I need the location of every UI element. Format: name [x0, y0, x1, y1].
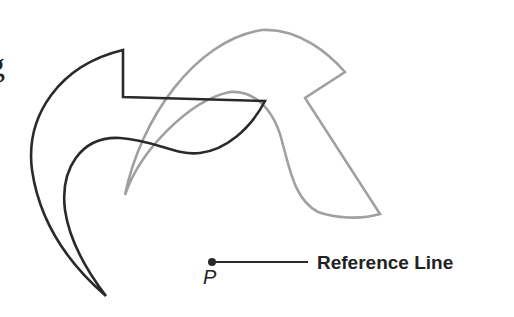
point-p-dot — [208, 258, 216, 266]
point-p-label: P — [203, 266, 216, 289]
transformed-shape — [125, 30, 380, 218]
reference-line-label: Reference Line — [317, 252, 453, 274]
original-shape — [31, 50, 265, 296]
